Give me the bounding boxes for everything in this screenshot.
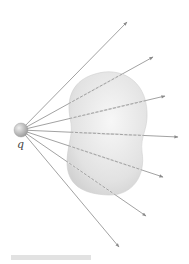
gauss-law-diagram xyxy=(0,0,189,264)
charge-label: q xyxy=(17,139,24,150)
caption-bar xyxy=(11,255,91,260)
point-charge xyxy=(14,123,28,137)
